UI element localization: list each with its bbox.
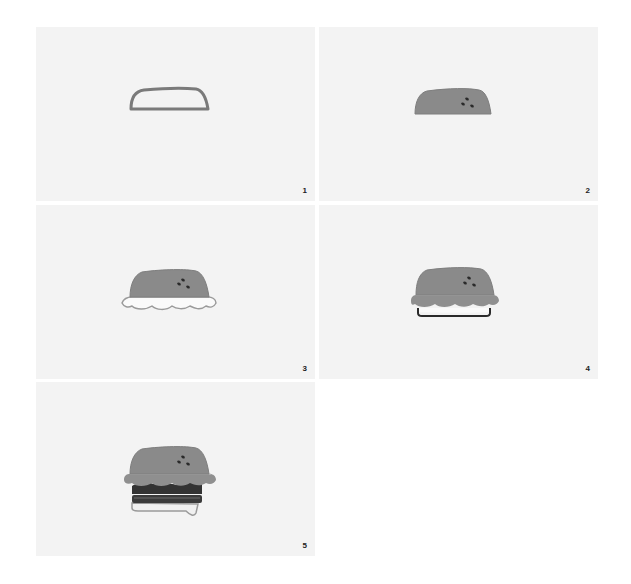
step-panel-3: 3 [36, 205, 315, 379]
step-number: 3 [303, 364, 307, 373]
bun-outline-drawing [36, 27, 315, 201]
complete-burger-drawing [36, 382, 315, 556]
step-panel-5: 5 [36, 382, 315, 556]
step-panel-4: 4 [319, 205, 598, 379]
step-number: 2 [586, 186, 590, 195]
step-panel-2: 2 [319, 27, 598, 201]
bun-lettuce-patty-outline-drawing [319, 205, 598, 379]
step-panel-1: 1 [36, 27, 315, 201]
step-number: 4 [586, 364, 590, 373]
filled-bun-drawing [319, 27, 598, 201]
step-number: 1 [303, 186, 307, 195]
step-number: 5 [303, 541, 307, 550]
bun-with-lettuce-drawing [36, 205, 315, 379]
